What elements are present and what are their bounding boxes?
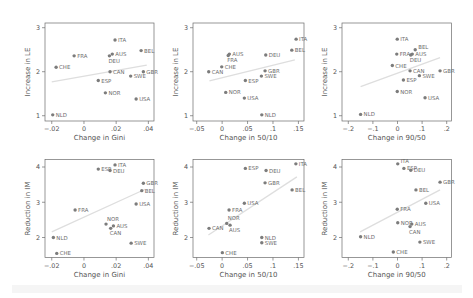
point-marker-icon	[244, 167, 247, 170]
point-label: ITA	[299, 36, 307, 42]
point-label: GBR	[443, 179, 455, 185]
data-point-bel: BEL	[290, 47, 305, 53]
point-marker-icon	[260, 113, 263, 116]
scatter-plot-grid: 123−.020.02.04Change in GiniIncrease in …	[0, 0, 473, 298]
point-marker-icon	[55, 252, 58, 255]
data-point-usa: USA	[134, 96, 150, 102]
point-label: NLD	[56, 235, 67, 241]
point-label: FRA	[227, 57, 238, 63]
data-point-bel: BEL	[414, 187, 429, 193]
y-tick-label: 3	[36, 199, 40, 207]
point-label: NLD	[364, 234, 375, 240]
point-marker-icon	[73, 208, 76, 211]
data-point-esp: ESP	[244, 165, 260, 171]
data-point-deu: DEU	[264, 52, 280, 58]
y-tick-label: 3	[333, 24, 337, 32]
point-marker-icon	[113, 38, 116, 41]
point-marker-icon	[414, 188, 417, 191]
point-marker-icon	[140, 189, 143, 192]
point-marker-icon	[227, 208, 230, 211]
data-point-che: CHE	[391, 63, 408, 69]
point-marker-icon	[129, 241, 132, 244]
point-marker-icon	[97, 167, 100, 170]
data-point-gbr: GBR	[438, 179, 455, 185]
point-marker-icon	[104, 222, 107, 225]
point-label: BEL	[144, 48, 154, 54]
point-marker-icon	[134, 202, 137, 205]
y-tick-label: 4	[184, 163, 188, 171]
point-label: NLD	[364, 111, 375, 117]
x-tick-label: .02	[111, 262, 121, 270]
x-tick-label: .1	[419, 125, 425, 133]
point-label: BEL	[295, 47, 305, 53]
point-label: ESP	[101, 78, 112, 84]
plot-frame	[45, 23, 154, 121]
data-point-can: CAN	[108, 69, 124, 75]
data-point-can: CAN	[207, 225, 223, 231]
data-point-swe: SWE	[260, 240, 277, 246]
y-tick-label: 2	[333, 234, 337, 242]
point-label: NOR	[229, 89, 241, 95]
x-axis-title: Change in 50/10	[220, 134, 278, 142]
y-tick-label: 3	[333, 199, 337, 207]
point-marker-icon	[134, 97, 137, 100]
data-point-nld: NLD	[51, 112, 67, 118]
y-tick-label: 1	[333, 112, 337, 120]
panel-5010-im: 234−.050.05.1.15Change in 50/10Reduction…	[172, 160, 307, 279]
point-label: DEU	[269, 168, 281, 174]
y-tick-label: 4	[333, 163, 337, 171]
y-tick-label: 2	[333, 68, 337, 76]
x-axis-title: Change in 90/50	[368, 271, 426, 279]
x-tick-label: .05	[242, 125, 252, 133]
x-tick-label: −.05	[189, 262, 205, 270]
point-marker-icon	[396, 221, 399, 224]
x-tick-label: −.2	[343, 125, 354, 133]
x-axis-title: Change in Gini	[74, 134, 125, 142]
point-label: NOR	[228, 215, 240, 221]
data-point-swe: SWE	[129, 240, 146, 246]
point-marker-icon	[142, 182, 145, 185]
data-point-ita: ITA	[294, 36, 307, 42]
point-label: FRA	[232, 207, 243, 213]
point-marker-icon	[108, 169, 111, 172]
point-label: SWE	[134, 240, 147, 246]
data-point-ita: ITA	[396, 158, 409, 166]
data-point-fra: FRA	[395, 51, 410, 57]
point-label: CHE	[59, 64, 71, 70]
point-label: NOR	[400, 89, 412, 95]
data-point-nor: NOR	[396, 89, 413, 95]
panel-9050-le: 123−.2−.10.1.2Change in 90/50Increase in…	[321, 23, 455, 142]
data-point-nor: NOR	[104, 90, 121, 96]
point-marker-icon	[260, 236, 263, 239]
point-marker-icon	[243, 202, 246, 205]
data-point-aus: AUS	[228, 223, 240, 233]
point-label: ESP	[248, 165, 259, 171]
point-label: NLD	[56, 112, 67, 118]
point-label: USA	[139, 201, 150, 207]
point-label: DEU	[414, 167, 426, 173]
y-axis-title: Reduction in IM	[172, 182, 180, 236]
point-label: ESP	[248, 78, 259, 84]
data-point-nld: NLD	[359, 234, 375, 240]
x-tick-label: .2	[444, 125, 450, 133]
point-marker-icon	[52, 236, 55, 239]
point-label: CAN	[113, 69, 124, 75]
x-tick-label: −.02	[44, 262, 60, 270]
y-axis-title: Increase in LE	[172, 48, 180, 97]
x-axis-title: Change in Gini	[74, 271, 125, 279]
point-label: CHE	[395, 63, 407, 69]
point-marker-icon	[396, 208, 399, 211]
x-tick-label: .02	[111, 125, 121, 133]
point-label: USA	[247, 95, 258, 101]
y-tick-label: 3	[184, 24, 188, 32]
point-marker-icon	[396, 37, 399, 40]
x-tick-label: .1	[270, 262, 276, 270]
data-point-fra: FRA	[227, 207, 242, 213]
point-label: AUS	[229, 227, 241, 233]
point-marker-icon	[111, 52, 114, 55]
data-point-bel: BEL	[140, 188, 155, 194]
y-tick-label: 1	[36, 112, 40, 120]
data-point-nld: NLD	[359, 111, 375, 117]
point-label: GBR	[146, 69, 158, 75]
point-label: AUS	[415, 221, 427, 227]
